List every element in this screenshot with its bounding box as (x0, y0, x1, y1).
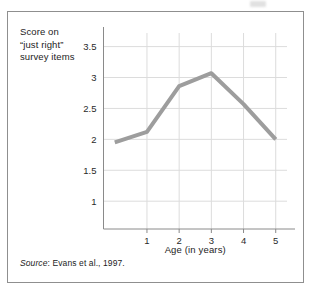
y-axis-caption: Score on “just right” survey items (20, 26, 98, 64)
y-axis-caption-line-2: “just right” (20, 39, 98, 52)
source-note: Source: Evans et al., 1997. (20, 258, 125, 268)
figure-root: Score on “just right” survey items 3.532… (0, 0, 314, 292)
scan-artifact-smudge (250, 1, 266, 7)
source-note-text: Evans et al., 1997. (50, 258, 125, 268)
y-axis-caption-line-1: Score on (20, 26, 98, 39)
source-note-label: Source (20, 258, 48, 268)
y-axis-caption-line-3: survey items (20, 51, 98, 64)
